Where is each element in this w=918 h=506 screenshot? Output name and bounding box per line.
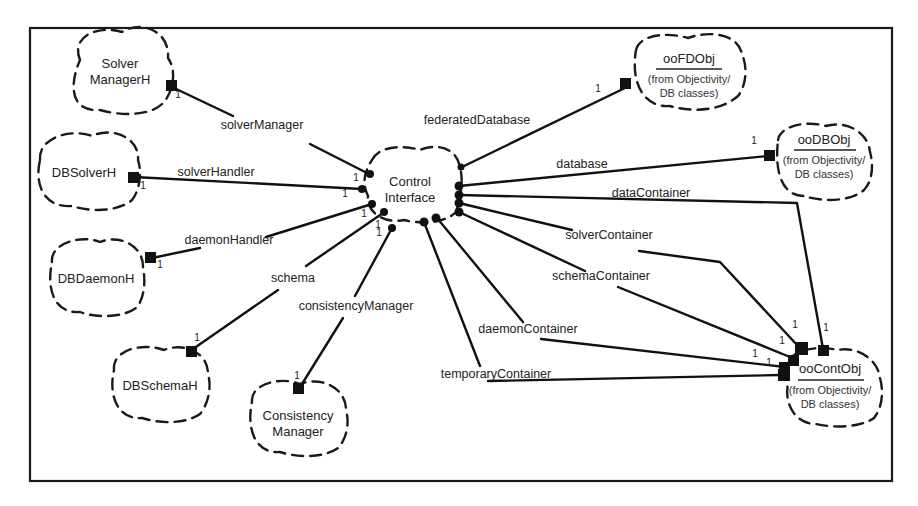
multiplicity-label: 1	[751, 135, 757, 146]
association-label: schema	[271, 271, 315, 285]
multiplicity-label: 1	[353, 172, 359, 183]
multiplicity-label: 1	[294, 370, 300, 381]
association-label: solverContainer	[565, 228, 653, 242]
class-package-note: DB classes)	[795, 168, 854, 180]
class-control-interface[interactable]: Control Interface	[365, 147, 462, 222]
association-label: daemonContainer	[478, 322, 577, 336]
multiplicity-label: 1	[194, 332, 200, 343]
multiplicity-label: 1	[376, 227, 382, 238]
class-package-note: (from Objectivity/	[648, 73, 731, 85]
class-solver-manager-h[interactable]: Solver ManagerH	[74, 27, 174, 114]
class-oo-fd-obj[interactable]: ooFDObj (from Objectivity/ DB classes)	[635, 34, 746, 110]
multiplicity-label: 1	[792, 319, 798, 330]
association-label: schemaContainer	[552, 269, 650, 283]
association-label: daemonHandler	[185, 233, 274, 247]
multiplicity-label: 1	[342, 188, 348, 199]
multiplicity-label: 1	[175, 89, 181, 100]
multiplicity-label: 1	[779, 335, 785, 346]
class-oo-cont-obj[interactable]: ooContObj (from Objectivity/ DB classes)	[787, 348, 882, 426]
multiplicity-label: 1	[140, 180, 146, 191]
association-label: database	[556, 157, 607, 171]
association-database[interactable]: 1 database	[455, 135, 776, 191]
multiplicity-label: 1	[766, 357, 772, 368]
association-consistency-manager[interactable]: 1 1 consistencyManager	[293, 224, 413, 394]
class-name: DBSolverH	[52, 165, 116, 180]
association-temporary-container[interactable]: 1 temporaryContainer	[420, 218, 791, 382]
multiplicity-label: 1	[752, 348, 758, 359]
class-package-note: (from Objectivity/	[783, 154, 866, 166]
class-package-note: DB classes)	[801, 398, 860, 410]
class-package-note: (from Objectivity/	[789, 384, 872, 396]
class-db-solver-h[interactable]: DBSolverH	[38, 132, 140, 210]
class-package-note: DB classes)	[660, 87, 719, 99]
class-name: ManagerH	[90, 72, 151, 87]
class-name: ooDBObj	[798, 132, 851, 147]
association-label: consistencyManager	[299, 299, 414, 313]
class-db-daemon-h[interactable]: DBDaemonH	[50, 239, 144, 316]
multiplicity-label: 1	[595, 83, 601, 94]
association-solver-handler[interactable]: 1 1 solverHandler	[128, 165, 366, 199]
class-name: ooFDObj	[663, 51, 715, 66]
class-db-schema-h[interactable]: DBSchemaH	[112, 347, 209, 422]
class-name: Consistency	[263, 408, 334, 423]
multiplicity-label: 1	[823, 322, 829, 333]
multiplicity-label: 1	[361, 208, 367, 219]
class-oo-db-obj[interactable]: ooDBObj (from Objectivity/ DB classes)	[777, 124, 872, 200]
association-label: solverManager	[221, 118, 304, 132]
class-name: ooContObj	[799, 361, 861, 376]
multiplicity-label: 1	[157, 259, 163, 270]
association-label: temporaryContainer	[441, 367, 551, 381]
association-daemon-handler[interactable]: 1 1 daemonHandler	[145, 200, 376, 270]
class-name: DBDaemonH	[58, 271, 135, 286]
association-label: federatedDatabase	[424, 113, 530, 127]
association-label: solverHandler	[177, 165, 254, 179]
class-name: Interface	[385, 190, 436, 205]
class-name: Solver	[102, 56, 140, 71]
diagram-frame	[30, 28, 892, 481]
class-name: Manager	[272, 424, 324, 439]
association-label: dataContainer	[612, 186, 691, 200]
class-name: DBSchemaH	[122, 378, 197, 393]
class-diagram: Solver ManagerH DBSolverH DBDaemonH DBSc…	[0, 0, 918, 506]
class-name: Control	[389, 174, 431, 189]
